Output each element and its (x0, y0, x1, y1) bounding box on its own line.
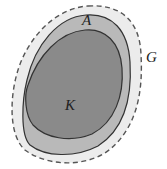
label-a: A (81, 12, 92, 28)
label-k: K (64, 97, 76, 113)
nested-sets-diagram: A G K (0, 0, 167, 169)
label-g: G (146, 49, 157, 65)
